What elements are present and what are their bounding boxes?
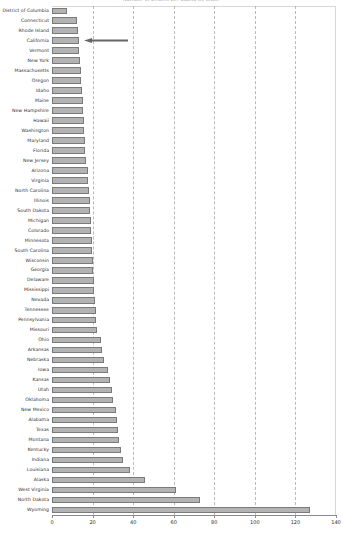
bar <box>52 277 94 284</box>
plot-area <box>52 6 336 515</box>
bar <box>52 67 81 74</box>
bar <box>52 207 90 214</box>
bar-row <box>52 325 336 335</box>
bar <box>52 387 112 394</box>
x-tick-mark-140 <box>336 515 337 518</box>
bar <box>52 447 121 454</box>
category-label: California <box>0 36 49 46</box>
bar-row <box>52 106 336 116</box>
category-label: Louisiana <box>0 465 49 475</box>
bar <box>52 327 97 334</box>
x-tick-mark-0 <box>52 515 53 518</box>
bar <box>52 127 84 134</box>
bar-row <box>52 46 336 56</box>
x-tick-label-60: 60 <box>171 519 177 525</box>
category-label: Texas <box>0 425 49 435</box>
bar <box>52 147 85 154</box>
x-tick-mark-120 <box>295 515 296 518</box>
bar-row <box>52 285 336 295</box>
category-label: Arizona <box>0 166 49 176</box>
bar-row <box>52 206 336 216</box>
category-label: Hawaii <box>0 116 49 126</box>
bar-row <box>52 485 336 495</box>
category-label: Virginia <box>0 176 49 186</box>
category-label: Indiana <box>0 455 49 465</box>
bar-row <box>52 156 336 166</box>
bar <box>52 467 130 474</box>
bar-row <box>52 355 336 365</box>
category-label: Colorado <box>0 226 49 236</box>
category-label: New Mexico <box>0 405 49 415</box>
bar <box>52 367 108 374</box>
bar <box>52 37 79 44</box>
bar-row <box>52 6 336 16</box>
x-tick-label-120: 120 <box>291 519 301 525</box>
bar-row <box>52 295 336 305</box>
category-label: New Jersey <box>0 156 49 166</box>
bar <box>52 487 176 494</box>
bar-row <box>52 246 336 256</box>
category-label: Mississippi <box>0 285 49 295</box>
bar-row <box>52 315 336 325</box>
bar-row <box>52 236 336 246</box>
category-label: South Dakota <box>0 206 49 216</box>
category-label: Connecticut <box>0 16 49 26</box>
bar <box>52 187 89 194</box>
bar-row <box>52 475 336 485</box>
bar-row <box>52 455 336 465</box>
bar <box>52 197 90 204</box>
x-tick-label-140: 140 <box>331 519 341 525</box>
bar <box>52 117 84 124</box>
bar-row <box>52 96 336 106</box>
bar <box>52 237 92 244</box>
x-tick-mark-20 <box>93 515 94 518</box>
category-label: New York <box>0 56 49 66</box>
category-label: Arkansas <box>0 345 49 355</box>
x-tick-label-100: 100 <box>250 519 260 525</box>
category-label: New Hampshire <box>0 106 49 116</box>
category-label: Kentucky <box>0 445 49 455</box>
bar <box>52 407 116 414</box>
bar-row <box>52 425 336 435</box>
x-axis-line <box>52 515 336 516</box>
bar <box>52 87 82 94</box>
bar <box>52 247 92 254</box>
bar-row <box>52 415 336 425</box>
bar <box>52 8 67 15</box>
category-label: Kansas <box>0 375 49 385</box>
bar <box>52 257 93 264</box>
bar <box>52 337 101 344</box>
category-label: Iowa <box>0 365 49 375</box>
category-label: Missouri <box>0 325 49 335</box>
bar <box>52 347 102 354</box>
bar <box>52 217 91 224</box>
bar-row <box>52 76 336 86</box>
x-tick-label-80: 80 <box>211 519 217 525</box>
bar <box>52 397 113 404</box>
bar <box>52 297 95 304</box>
bar <box>52 427 118 434</box>
category-label: Nevada <box>0 295 49 305</box>
bar <box>52 27 78 34</box>
x-tick-label-20: 20 <box>89 519 95 525</box>
category-label: Pennsylvania <box>0 315 49 325</box>
bar <box>52 137 85 144</box>
bar-row <box>52 395 336 405</box>
bar <box>52 317 96 324</box>
bar-row <box>52 275 336 285</box>
category-label: Delaware <box>0 275 49 285</box>
category-label: Oklahoma <box>0 395 49 405</box>
bar-row <box>52 66 336 76</box>
category-label: District of Columbia <box>0 6 49 16</box>
bar <box>52 57 80 64</box>
bar <box>52 437 119 444</box>
bar <box>52 77 81 84</box>
category-label: Tennessee <box>0 305 49 315</box>
bar <box>52 267 93 274</box>
bar-row <box>52 465 336 475</box>
bar-row <box>52 136 336 146</box>
x-tick-mark-40 <box>133 515 134 518</box>
bar-row <box>52 345 336 355</box>
bar-row <box>52 365 336 375</box>
category-label: Washington <box>0 126 49 136</box>
